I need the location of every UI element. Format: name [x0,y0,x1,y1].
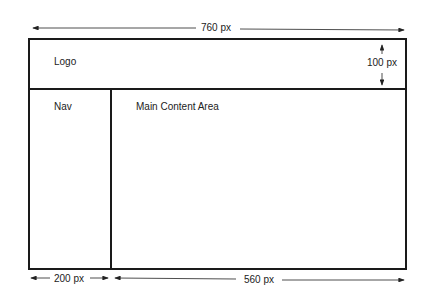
nav-region [28,88,112,270]
nav-width-label: 200 px [54,273,84,284]
total-width-label: 760 px [201,22,231,33]
main-width-label: 560 px [244,274,274,285]
nav-label: Nav [54,101,72,112]
main-content-label: Main Content Area [136,101,219,112]
logo-label: Logo [54,56,76,67]
header-region [28,38,407,90]
